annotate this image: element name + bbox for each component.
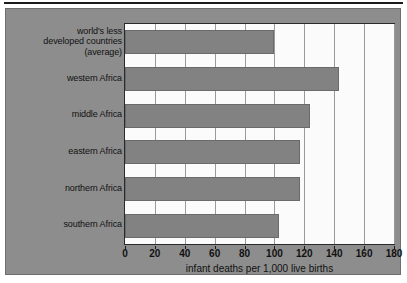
category-label-line: northern Africa xyxy=(12,183,122,194)
category-label-line: western Africa xyxy=(12,73,122,84)
bar xyxy=(125,104,310,128)
category-label-5: northern Africa xyxy=(12,183,122,194)
x-tick-label-180: 180 xyxy=(379,248,407,259)
category-label-line: (average) xyxy=(12,47,122,58)
infant-mortality-bar-chart: world's lessdeveloped countries(average)… xyxy=(0,0,407,283)
category-label-4: eastern Africa xyxy=(12,146,122,157)
x-tick-label-100: 100 xyxy=(259,248,289,259)
category-label-line: world's less xyxy=(12,26,122,37)
plot-inner xyxy=(125,24,394,244)
bar xyxy=(125,177,300,201)
x-tick-label-140: 140 xyxy=(319,248,349,259)
bar xyxy=(125,67,339,91)
x-tick-label-80: 80 xyxy=(230,248,260,259)
category-label-1: world's lessdeveloped countries(average) xyxy=(12,26,122,58)
gridline-160 xyxy=(364,24,365,244)
gridline-120 xyxy=(304,24,305,244)
x-axis-title: infant deaths per 1,000 live births xyxy=(124,263,395,274)
gridline-60 xyxy=(215,24,216,244)
category-label-line: eastern Africa xyxy=(12,146,122,157)
gridline-100 xyxy=(274,24,275,244)
x-axis: 020406080100120140160180 xyxy=(124,246,395,260)
x-tick-label-120: 120 xyxy=(289,248,319,259)
bar xyxy=(125,30,274,54)
top-rule-divider xyxy=(4,2,403,4)
category-label-line: developed countries xyxy=(12,36,122,47)
gridline-140 xyxy=(334,24,335,244)
chart-panel: world's lessdeveloped countries(average)… xyxy=(5,8,401,275)
x-tick-label-60: 60 xyxy=(200,248,230,259)
category-label-6: southern Africa xyxy=(12,219,122,230)
category-label-3: middle Africa xyxy=(12,109,122,120)
x-tick-label-20: 20 xyxy=(140,248,170,259)
x-tick-label-40: 40 xyxy=(170,248,200,259)
bar xyxy=(125,140,300,164)
x-tick-label-0: 0 xyxy=(110,248,140,259)
gridline-20 xyxy=(155,24,156,244)
bar xyxy=(125,214,279,238)
plot-area xyxy=(124,23,395,245)
gridline-180 xyxy=(394,24,395,244)
category-label-line: middle Africa xyxy=(12,109,122,120)
gridline-80 xyxy=(245,24,246,244)
gridline-40 xyxy=(185,24,186,244)
x-tick-label-160: 160 xyxy=(349,248,379,259)
category-label-2: western Africa xyxy=(12,73,122,84)
category-label-line: southern Africa xyxy=(12,219,122,230)
category-axis-labels: world's lessdeveloped countries(average)… xyxy=(12,23,122,245)
